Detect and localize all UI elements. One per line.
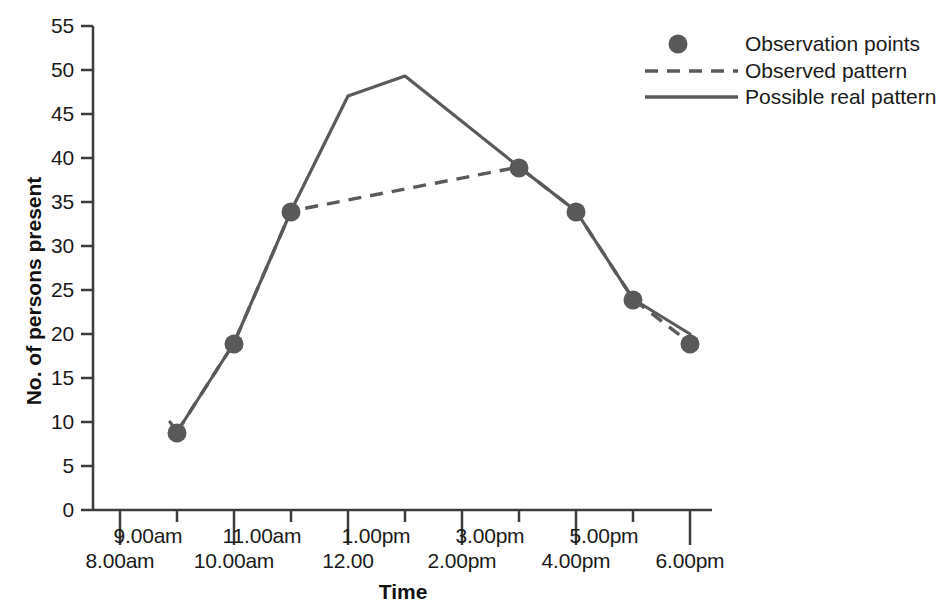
- data-point: [282, 203, 301, 222]
- series-possible-real-pattern: [170, 76, 690, 432]
- x-tick-label: 10.00am: [194, 549, 274, 573]
- x-tick-label: 1.00pm: [342, 524, 411, 548]
- x-tick-label: 6.00pm: [656, 549, 725, 573]
- data-point: [567, 203, 586, 222]
- series-observation-points: [168, 159, 700, 443]
- y-tick-label: 50: [18, 58, 74, 82]
- legend-markers: [645, 35, 738, 98]
- data-point: [510, 159, 529, 178]
- x-tick-label: 3.00pm: [456, 524, 525, 548]
- data-point: [168, 424, 187, 443]
- x-axis-title: Time: [379, 580, 428, 604]
- y-tick-label: 45: [18, 102, 74, 126]
- y-axis-title: No. of persons present: [22, 177, 46, 406]
- y-tick-label: 40: [18, 146, 74, 170]
- legend-label-possible-real-pattern: Possible real pattern: [745, 85, 936, 109]
- legend-label-observation-points: Observation points: [745, 32, 920, 56]
- legend-dot-icon: [669, 35, 688, 54]
- data-point: [624, 291, 643, 310]
- y-tick-label: 0: [18, 498, 74, 522]
- data-point: [225, 335, 244, 354]
- y-tick-label: 5: [18, 454, 74, 478]
- x-tick-label: 12.00: [322, 549, 374, 573]
- y-tick-label: 55: [18, 14, 74, 38]
- x-tick-label: 9.00am: [114, 524, 183, 548]
- x-tick-label: 11.00am: [223, 524, 302, 548]
- y-axis-ticks: [81, 26, 93, 510]
- legend-label-observed-pattern: Observed pattern: [745, 59, 907, 83]
- x-tick-label: 4.00pm: [542, 549, 611, 573]
- y-tick-label: 10: [18, 410, 74, 434]
- x-tick-label: 8.00am: [86, 549, 155, 573]
- x-tick-label: 2.00pm: [428, 549, 497, 573]
- x-tick-label: 5.00pm: [570, 524, 639, 548]
- data-point: [681, 335, 700, 354]
